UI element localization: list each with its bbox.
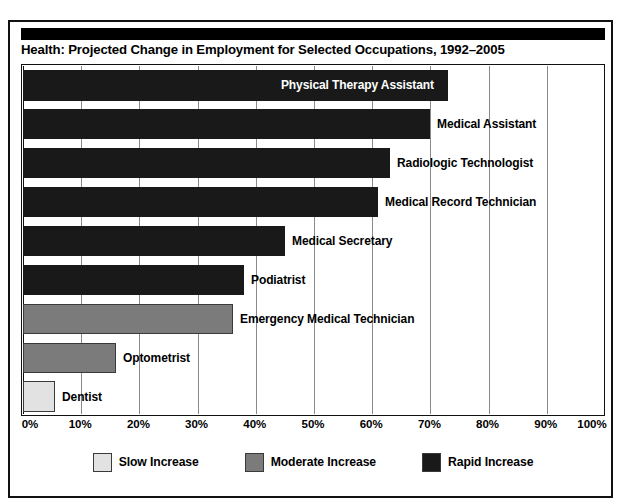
legend-label: Rapid Increase: [448, 455, 533, 469]
bar-row: Medical Assistant: [23, 109, 603, 139]
legend-swatch-moderate: [245, 453, 264, 472]
plot-frame: Physical Therapy AssistantMedical Assist…: [21, 64, 605, 416]
x-tick-label: 40%: [243, 418, 266, 430]
bar[interactable]: [23, 343, 116, 373]
chart-figure: Health: Projected Change in Employment f…: [8, 20, 613, 498]
x-tick-label: 20%: [127, 418, 150, 430]
bar[interactable]: [23, 381, 55, 411]
plot-area: Physical Therapy AssistantMedical Assist…: [23, 66, 603, 414]
bar-row: Dentist: [23, 381, 603, 411]
bar[interactable]: [23, 187, 378, 217]
legend-label: Slow Increase: [119, 455, 199, 469]
x-tick-label: 60%: [360, 418, 383, 430]
legend-label: Moderate Increase: [271, 455, 376, 469]
bar[interactable]: [23, 226, 285, 256]
bar-label: Dentist: [62, 391, 102, 403]
bar[interactable]: [23, 265, 244, 295]
bar-label: Medical Record Technician: [385, 196, 536, 208]
bar[interactable]: [23, 109, 430, 139]
x-tick-label: 50%: [301, 418, 324, 430]
bar-label: Physical Therapy Assistant: [281, 79, 442, 91]
legend-swatch-slow: [93, 453, 112, 472]
legend-item-rapid[interactable]: Rapid Increase: [422, 453, 533, 472]
legend-swatch-rapid: [422, 453, 441, 472]
legend-item-slow[interactable]: Slow Increase: [93, 453, 199, 472]
x-tick-label: 70%: [418, 418, 441, 430]
x-tick-label: 80%: [476, 418, 499, 430]
x-tick-label: 90%: [534, 418, 557, 430]
x-axis: 0%10%20%30%40%50%60%70%80%90%100%: [21, 418, 605, 434]
bar-label: Radiologic Technologist: [397, 157, 533, 169]
bar-row: Radiologic Technologist: [23, 148, 603, 178]
bar-row: Podiatrist: [23, 265, 603, 295]
bar-label: Medical Secretary: [292, 235, 392, 247]
bar-label: Podiatrist: [251, 274, 305, 286]
bar[interactable]: [23, 304, 233, 334]
bar-row: Medical Secretary: [23, 226, 603, 256]
chart-title: Health: Projected Change in Employment f…: [21, 42, 605, 62]
bar-label: Optometrist: [123, 352, 190, 364]
bar-label: Medical Assistant: [437, 118, 536, 130]
bar-row: Emergency Medical Technician: [23, 304, 603, 334]
x-tick-label: 0%: [22, 418, 39, 430]
bar-label: Emergency Medical Technician: [240, 313, 414, 325]
bar-row: Physical Therapy Assistant: [23, 70, 603, 100]
legend-item-moderate[interactable]: Moderate Increase: [245, 453, 376, 472]
bar-row: Optometrist: [23, 343, 603, 373]
x-tick-label: 100%: [577, 418, 606, 430]
bar-row: Medical Record Technician: [23, 187, 603, 217]
x-tick-label: 30%: [185, 418, 208, 430]
x-tick-label: 10%: [69, 418, 92, 430]
chart-legend: Slow IncreaseModerate IncreaseRapid Incr…: [21, 450, 605, 474]
header-rule: [21, 28, 605, 40]
bar[interactable]: [23, 148, 390, 178]
